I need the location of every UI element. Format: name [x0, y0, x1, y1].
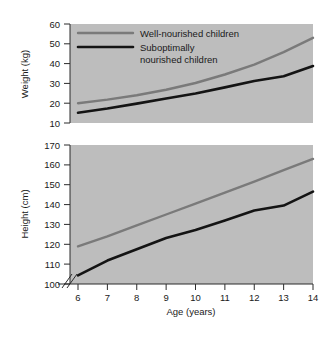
x-axis-tick-label-7: 7: [105, 292, 110, 303]
x-axis-tick-label-13: 13: [278, 292, 289, 303]
x-axis-tick-label-6: 6: [75, 292, 80, 303]
height-y-tick-label-130: 130: [44, 219, 60, 230]
x-axis-tick-label-8: 8: [134, 292, 139, 303]
growth-chart-figure: 60 50 40 30 20 10 Weight (kg) Well-nouri…: [0, 0, 326, 337]
height-y-tick-label-120: 120: [44, 239, 60, 250]
height-y-tick-labels: 170 160 150 140 130 120 110 100: [44, 140, 60, 290]
weight-y-tick-label-50: 50: [49, 38, 60, 49]
weight-y-tick-label-10: 10: [49, 118, 60, 129]
weight-y-tick-label-40: 40: [49, 58, 60, 69]
weight-chart-panel: 60 50 40 30 20 10 Weight (kg) Well-nouri…: [19, 19, 313, 129]
height-y-ticks: [64, 145, 70, 284]
weight-y-tick-labels: 60 50 40 30 20 10: [49, 19, 60, 129]
weight-y-tick-label-20: 20: [49, 98, 60, 109]
height-y-tick-label-110: 110: [45, 259, 60, 270]
height-chart-panel: 170 160 150 140 130 120 110 100 Height (…: [19, 140, 318, 318]
height-y-tick-label-140: 140: [44, 199, 60, 210]
weight-y-tick-label-30: 30: [49, 78, 60, 89]
x-axis-ticks-group: 67891011121314: [75, 284, 318, 303]
x-axis-tick-label-12: 12: [249, 292, 260, 303]
height-plot-background: [70, 145, 313, 284]
x-axis-tick-label-14: 14: [308, 292, 319, 303]
legend-label-well-nourished: Well-nourished children: [140, 28, 239, 39]
x-axis-tick-label-10: 10: [190, 292, 201, 303]
x-axis-title: Age (years): [166, 306, 215, 317]
legend-label-suboptimally-nourished: Suboptimally: [140, 42, 195, 53]
x-axis-tick-label-9: 9: [163, 292, 168, 303]
height-y-tick-label-100: 100: [44, 279, 60, 290]
weight-y-axis-title: Weight (kg): [19, 50, 30, 98]
height-y-tick-label-150: 150: [44, 179, 60, 190]
height-y-tick-label-160: 160: [44, 159, 60, 170]
weight-y-tick-label-60: 60: [49, 19, 60, 30]
x-axis-tick-label-11: 11: [220, 292, 230, 303]
legend-label-suboptimally-nourished-line2: nourished children: [140, 54, 218, 65]
height-y-tick-label-170: 170: [44, 140, 60, 151]
height-y-axis-title: Height (cm): [19, 189, 30, 238]
weight-y-ticks: [64, 24, 70, 123]
